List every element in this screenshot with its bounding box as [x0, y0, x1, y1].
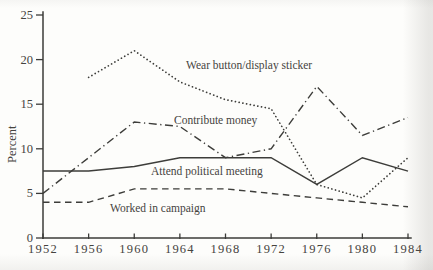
x-tick-label: 1976	[302, 242, 332, 256]
series-line-contribute-money	[43, 86, 408, 193]
series-label-attend-political-meeting: Attend political meeting	[151, 165, 263, 178]
x-tick-label: 1960	[119, 242, 149, 256]
y-tick-label: 5	[27, 186, 33, 200]
x-tick-label: 1972	[256, 242, 286, 256]
series-line-worked-in-campaign	[43, 189, 408, 207]
series-label-contribute-money: Contribute money	[174, 114, 258, 127]
y-axis-title: Percent	[5, 125, 19, 163]
x-tick-label: 1984	[393, 242, 423, 256]
line-chart: Percent 05101520251952195619601964196819…	[0, 0, 433, 270]
y-tick-label: 20	[21, 53, 34, 67]
x-tick-label: 1956	[74, 242, 104, 256]
x-tick-label: 1952	[28, 242, 58, 256]
chart-generated-content: 0510152025195219561960196419681972197619…	[21, 8, 423, 256]
x-tick-label: 1980	[347, 242, 377, 256]
series-label-wear-button-display-sticker: Wear button/display sticker	[186, 59, 312, 72]
y-tick-label: 10	[21, 142, 34, 156]
series-label-worked-in-campaign: Worked in campaign	[110, 202, 206, 215]
y-tick-label: 15	[21, 97, 34, 111]
x-tick-label: 1968	[211, 242, 241, 256]
book-page-chart-figure: Percent 05101520251952195619601964196819…	[0, 0, 433, 270]
x-tick-label: 1964	[165, 242, 195, 256]
y-tick-label: 25	[21, 8, 34, 22]
